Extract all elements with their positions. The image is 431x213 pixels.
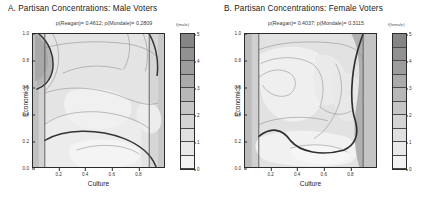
plot-area-male: 1.0 0.8 0.6 0.4 0.2 0.0 0.2 0.4 0.6 0.8 … bbox=[32, 33, 165, 168]
colorbar-title-male: f(male) bbox=[176, 22, 189, 27]
ytick-1-0: 1.0 bbox=[235, 31, 244, 36]
figure-root: A. Partisan Concentrations: Male Voters … bbox=[0, 0, 431, 213]
contour-svg-male bbox=[33, 34, 164, 167]
ytick-0-2: 0.2 bbox=[23, 139, 32, 144]
ytick-0-8: 0.8 bbox=[23, 58, 32, 63]
xtick-0-8: 0.8 bbox=[135, 168, 141, 177]
colorbar-female: 5 4 3 2 1 0 bbox=[392, 33, 407, 170]
ytick-0-8: 0.8 bbox=[235, 58, 244, 63]
cbar-tick-4: 4 bbox=[406, 59, 412, 64]
colorbar-male: 5 4 3 2 1 0 bbox=[180, 33, 195, 170]
contour-canvas-female bbox=[244, 33, 377, 168]
xtick-0-2: 0.2 bbox=[267, 168, 273, 177]
panel-male: A. Partisan Concentrations: Male Voters … bbox=[0, 0, 215, 213]
xtick-0-4: 0.4 bbox=[82, 168, 88, 177]
plot-area-female: 1.0 0.8 0.6 0.4 0.2 0.0 0.2 0.4 0.6 0.8 … bbox=[244, 33, 377, 168]
cbar-tick-0: 0 bbox=[406, 167, 412, 172]
cbar-tick-4: 4 bbox=[194, 59, 200, 64]
cbar-tick-1: 1 bbox=[406, 140, 412, 145]
xtick-0-8: 0.8 bbox=[347, 168, 353, 177]
xtick-0-6: 0.6 bbox=[109, 168, 115, 177]
xtick-0-2: 0.2 bbox=[55, 168, 61, 177]
panel-subtitle-male: p(Reagan)= 0.4612; p(Mondale)= 0.2809 bbox=[34, 20, 174, 26]
colorbar-title-female: f(female) bbox=[388, 22, 405, 27]
x-axis-label-male: Culture bbox=[88, 180, 109, 187]
xtick-0-6: 0.6 bbox=[321, 168, 327, 177]
cbar-tick-2: 2 bbox=[194, 113, 200, 118]
panel-female: B. Partisan Concentrations: Female Voter… bbox=[216, 0, 431, 213]
xtick-0-4: 0.4 bbox=[294, 168, 300, 177]
cbar-tick-3: 3 bbox=[194, 86, 200, 91]
panel-title-male: A. Partisan Concentrations: Male Voters bbox=[8, 4, 157, 13]
contour-canvas-male bbox=[32, 33, 165, 168]
ytick-1-0: 1.0 bbox=[23, 31, 32, 36]
ytick-0-2: 0.2 bbox=[235, 139, 244, 144]
x-axis-label-female: Culture bbox=[300, 180, 321, 187]
y-axis-label-female: Economics bbox=[234, 85, 241, 116]
panel-title-female: B. Partisan Concentrations: Female Voter… bbox=[224, 4, 383, 13]
cbar-tick-5: 5 bbox=[406, 32, 412, 37]
ytick-0-0: 0.0 bbox=[235, 166, 244, 171]
cbar-tick-3: 3 bbox=[406, 86, 412, 91]
panel-subtitle-female: p(Reagan)= 0.4037; p(Mondale)= 0.3115 bbox=[246, 20, 386, 26]
y-axis-label-male: Economics bbox=[22, 85, 29, 116]
cbar-tick-0: 0 bbox=[194, 167, 200, 172]
cbar-tick-1: 1 bbox=[194, 140, 200, 145]
cbar-tick-2: 2 bbox=[406, 113, 412, 118]
cbar-tick-5: 5 bbox=[194, 32, 200, 37]
ytick-0-0: 0.0 bbox=[23, 166, 32, 171]
contour-svg-female bbox=[245, 34, 376, 167]
